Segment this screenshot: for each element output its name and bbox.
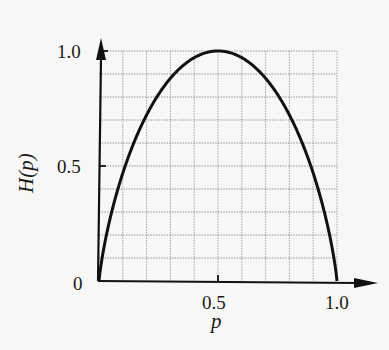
y-axis-title: H(p) — [14, 153, 38, 194]
y-axis — [98, 58, 101, 281]
grid — [99, 51, 337, 281]
x-axis — [98, 281, 358, 283]
y-tick-label-1: 1.0 — [57, 41, 81, 62]
x-axis-arrow-icon — [354, 278, 378, 288]
y-axis-arrow-icon — [96, 38, 106, 60]
x-axis-title: p — [209, 309, 222, 333]
y-tick-label-0: 0 — [73, 273, 83, 294]
x-tick-label-1: 1.0 — [325, 292, 349, 313]
entropy-chart: 1.0 0.5 0 0.5 1.0 p H(p) — [0, 0, 389, 350]
y-tick-label-05: 0.5 — [57, 156, 81, 177]
